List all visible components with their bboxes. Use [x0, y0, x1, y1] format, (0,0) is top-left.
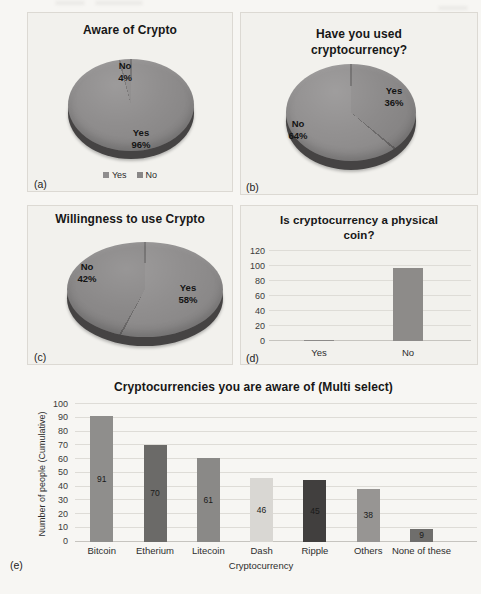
slice-name: No [105, 60, 145, 72]
y-axis-tick-label: 70 [58, 440, 68, 451]
y-axis-tick-label: 100 [53, 399, 68, 410]
gridline [75, 431, 477, 432]
scanned-figure-page: Aware of Crypto No 4% Yes 96% Yes No (a)… [0, 0, 481, 594]
gridline [75, 444, 477, 445]
panel-willingness-to-use-crypto: Willingness to use Crypto No 42% Yes 58%… [27, 205, 233, 365]
gridline [269, 250, 471, 251]
gridline [269, 325, 471, 326]
pie-slice-label-yes: Yes 36% [374, 85, 414, 109]
chart-title: Have you used cryptocurrency? [279, 27, 439, 58]
slice-name: No [278, 118, 318, 130]
slice-name: No [67, 261, 107, 273]
y-axis-tick-label: 120 [250, 246, 265, 257]
gridline [75, 458, 477, 459]
pie-slice-label-no: No 4% [105, 60, 145, 84]
gridline [75, 486, 477, 487]
panel-letter-d: (d) [246, 352, 259, 364]
gridline [75, 472, 477, 473]
pie-slice-label-no: No 64% [278, 118, 318, 142]
slice-percent: 4% [105, 72, 145, 84]
chart-title: Is cryptocurrency a physical coin? [264, 213, 454, 243]
gridline [269, 280, 471, 281]
gridline [269, 310, 471, 311]
chart-title: Aware of Crypto [28, 23, 232, 39]
bar-value-label: 91 [88, 474, 116, 484]
x-axis-category-label: None of these [388, 545, 456, 556]
pie-legend: Yes No [28, 170, 232, 180]
legend-item-no: No [137, 170, 158, 180]
y-axis-tick-label: 10 [58, 522, 68, 533]
legend-label: No [146, 170, 158, 180]
legend-item-yes: Yes [103, 170, 127, 180]
x-axis: YesNo [269, 347, 471, 360]
y-axis-tick-label: 20 [255, 321, 265, 332]
gridline [75, 417, 477, 418]
legend-swatch-yes [103, 172, 109, 178]
pie-slice-label-yes: Yes 96% [121, 127, 161, 151]
panel-letter-a: (a) [34, 178, 47, 190]
panel-letter-e: (e) [10, 559, 23, 571]
y-axis-tick-label: 90 [58, 412, 68, 423]
legend-swatch-no [137, 172, 143, 178]
gridline [75, 403, 477, 404]
pie-have-you-used [286, 64, 416, 161]
scan-artifact [438, 6, 468, 10]
bar-no [393, 268, 423, 341]
y-axis-tick-label: 60 [255, 291, 265, 302]
y-axis-tick-label: 60 [58, 454, 68, 465]
panel-have-you-used-cryptocurrency: Have you used cryptocurrency? Yes 36% No… [240, 12, 478, 195]
y-axis-tick-label: 80 [255, 276, 265, 287]
x-axis-title: Cryptocurrency [60, 560, 462, 571]
panel-letter-c: (c) [34, 351, 46, 363]
panel-cryptocurrencies-aware-of: Cryptocurrencies you are aware of (Multi… [0, 372, 481, 594]
gridline [269, 340, 471, 341]
y-axis-tick-label: 80 [58, 426, 68, 437]
slice-name: Yes [374, 85, 414, 97]
bar-value-label: 9 [408, 530, 436, 540]
pie-slice-label-yes: Yes 58% [168, 282, 208, 306]
plot-area: 9170614645389 [75, 404, 477, 542]
y-axis-tick-label: 30 [58, 495, 68, 506]
scan-artifact [95, 1, 143, 5]
bar-value-label: 46 [248, 505, 276, 515]
y-axis-tick-label: 100 [250, 261, 265, 272]
x-axis-category-label: Yes [285, 347, 353, 358]
x-axis-category-label: No [374, 347, 442, 358]
panel-letter-b: (b) [246, 181, 259, 193]
y-axis-tick-label: 50 [58, 467, 68, 478]
gridline [75, 499, 477, 500]
pie-slice-label-no: No 42% [67, 261, 107, 285]
gridline [269, 295, 471, 296]
bar-yes [304, 340, 334, 342]
slice-name: Yes [168, 282, 208, 294]
panel-aware-of-crypto: Aware of Crypto No 4% Yes 96% Yes No (a) [27, 12, 233, 192]
slice-percent: 96% [121, 139, 161, 151]
slice-percent: 36% [374, 97, 414, 109]
x-axis: BitcoinEtheriumLitecoinDashRippleOthersN… [75, 545, 477, 558]
slice-percent: 64% [278, 130, 318, 142]
gridline [75, 527, 477, 528]
y-axis: 020406080100120 [241, 251, 267, 341]
bar-value-label: 45 [301, 506, 329, 516]
plot-area [269, 251, 471, 341]
legend-label: Yes [112, 170, 127, 180]
y-axis-tick-label: 20 [58, 509, 68, 520]
bar-value-label: 61 [194, 495, 222, 505]
slice-percent: 58% [168, 294, 208, 306]
slice-name: Yes [121, 127, 161, 139]
chart-title: Willingness to use Crypto [28, 212, 232, 228]
y-axis-tick-label: 0 [260, 336, 265, 347]
bar-value-label: 70 [141, 488, 169, 498]
y-axis: 0102030405060708090100 [40, 404, 70, 542]
bar-value-label: 38 [354, 510, 382, 520]
panel-is-crypto-physical-coin: Is cryptocurrency a physical coin? 02040… [240, 205, 478, 365]
scan-artifact [55, 1, 85, 5]
gridline [75, 513, 477, 514]
gridline [269, 265, 471, 266]
y-axis-tick-label: 40 [58, 481, 68, 492]
y-axis-tick-label: 40 [255, 306, 265, 317]
slice-percent: 42% [67, 273, 107, 285]
chart-title: Cryptocurrencies you are aware of (Multi… [0, 380, 481, 396]
